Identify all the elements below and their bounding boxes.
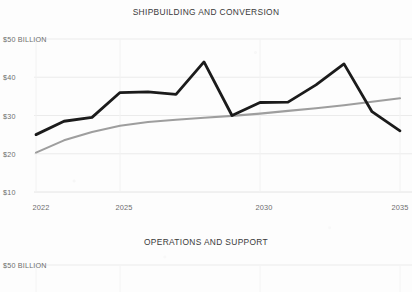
y-tick-30-shipbuilding: $30 bbox=[3, 111, 16, 120]
y-tick-10-shipbuilding: $10 bbox=[3, 188, 16, 197]
chart-plot-shipbuilding bbox=[0, 0, 412, 220]
x-tick-2030: 2030 bbox=[255, 203, 272, 212]
series-line-secondary bbox=[36, 98, 400, 152]
chart-panel-shipbuilding: SHIPBUILDING AND CONVERSION $50 BILLIO bbox=[0, 0, 412, 220]
vertical-gridlines-operations bbox=[36, 265, 400, 292]
x-tick-2025: 2025 bbox=[115, 203, 132, 212]
y-tick-50-shipbuilding: $50 BILLION bbox=[3, 35, 47, 44]
report-page: SHIPBUILDING AND CONVERSION $50 BILLIO bbox=[0, 0, 412, 292]
chart-plot-operations bbox=[0, 226, 412, 292]
y-tick-20-shipbuilding: $20 bbox=[3, 149, 16, 158]
x-tick-2035: 2035 bbox=[391, 203, 408, 212]
x-tick-2022: 2022 bbox=[32, 203, 49, 212]
y-tick-50-operations: $50 BILLION bbox=[3, 261, 47, 270]
y-tick-40-shipbuilding: $40 bbox=[3, 73, 16, 82]
series-line-primary bbox=[36, 62, 400, 135]
chart-panel-operations: OPERATIONS AND SUPPORT $50 BILLION bbox=[0, 226, 412, 292]
